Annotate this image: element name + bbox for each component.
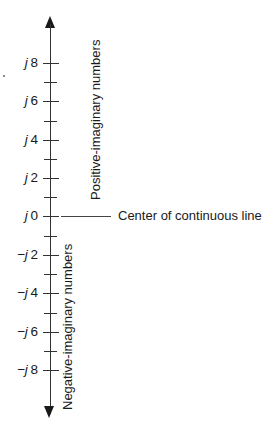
minor-tick xyxy=(44,274,57,275)
minor-tick xyxy=(44,159,57,160)
major-tick xyxy=(43,140,59,141)
tick-label-value: 0 xyxy=(28,208,38,223)
positive-imaginary-label: Positive-imaginary numbers xyxy=(88,40,103,200)
major-tick xyxy=(43,178,59,179)
tick-label: −j 6 xyxy=(17,325,38,339)
negative-imaginary-label: Negative-imaginary numbers xyxy=(60,244,75,410)
major-tick xyxy=(43,101,59,102)
tick-label: −j 2 xyxy=(17,248,38,262)
minor-tick xyxy=(44,236,57,237)
minor-tick xyxy=(44,313,57,314)
major-tick xyxy=(43,370,59,371)
tick-label-value: 6 xyxy=(28,324,38,339)
tick-label-value: 6 xyxy=(28,93,38,108)
tick-label-prefix: −j xyxy=(17,362,28,377)
tick-label-value: 4 xyxy=(28,285,38,300)
minor-tick xyxy=(44,82,57,83)
tick-label: −j 4 xyxy=(17,286,38,300)
major-tick xyxy=(43,255,59,256)
minor-tick xyxy=(44,197,57,198)
center-annotation: Center of continuous line xyxy=(118,208,262,223)
arrow-down-icon xyxy=(44,406,54,418)
major-tick xyxy=(43,293,59,294)
tick-label-prefix: −j xyxy=(17,324,28,339)
tick-label-prefix: −j xyxy=(17,285,28,300)
tick-label: j 0 xyxy=(25,209,38,223)
stray-dot xyxy=(3,75,5,77)
tick-label-value: 8 xyxy=(28,55,38,70)
tick-label: j 2 xyxy=(25,171,38,185)
tick-label-value: 2 xyxy=(28,170,38,185)
tick-label-value: 4 xyxy=(28,132,38,147)
minor-tick xyxy=(44,121,57,122)
tick-label-value: 2 xyxy=(28,247,38,262)
tick-label: j 8 xyxy=(25,56,38,70)
center-pointer-line xyxy=(61,216,111,217)
major-tick xyxy=(43,63,59,64)
tick-label-prefix: −j xyxy=(17,247,28,262)
tick-label-value: 8 xyxy=(28,362,38,377)
major-tick xyxy=(43,216,59,217)
tick-label: j 6 xyxy=(25,94,38,108)
major-tick xyxy=(43,332,59,333)
minor-tick xyxy=(44,351,57,352)
tick-label: −j 8 xyxy=(17,363,38,377)
tick-label: j 4 xyxy=(25,133,38,147)
